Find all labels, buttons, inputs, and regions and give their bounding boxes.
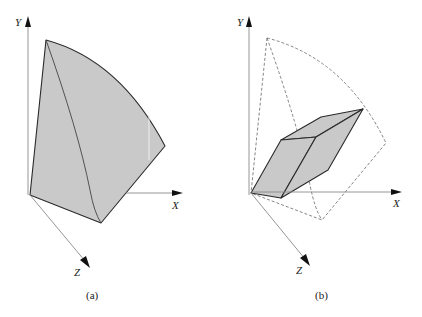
diagram-canvas: Y X Z (a) Y X Z (b) xyxy=(0,0,422,317)
x-arrow-icon xyxy=(172,190,183,196)
x-axis-label-a: X xyxy=(171,199,180,211)
figure-b: Y X Z (b) xyxy=(237,16,402,302)
caption-a: (a) xyxy=(86,289,99,302)
sector-solid xyxy=(30,40,165,223)
x-axis-label-b: X xyxy=(392,197,401,209)
figure-a: Y X Z (a) xyxy=(15,16,183,302)
y-arrow-icon xyxy=(25,16,31,27)
z-arrow-icon xyxy=(80,256,90,268)
z-axis-label-b: Z xyxy=(296,264,303,276)
z-axis-label-a: Z xyxy=(74,266,81,278)
x-arrow-icon xyxy=(391,189,402,195)
caption-b: (b) xyxy=(315,289,328,302)
y-axis-label-a: Y xyxy=(15,16,23,28)
y-arrow-icon xyxy=(246,16,252,27)
y-axis-label-b: Y xyxy=(237,16,245,28)
